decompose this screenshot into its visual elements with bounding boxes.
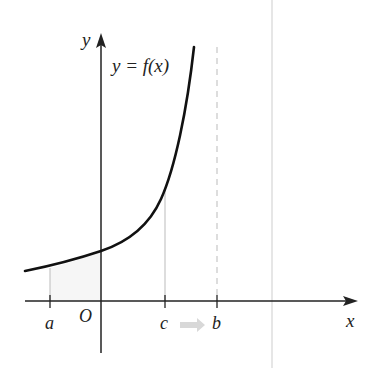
c-to-b-arrow-icon [180,318,205,332]
point-b-label: b [212,313,221,333]
origin-label: O [79,306,92,326]
x-axis-label: x [345,310,355,331]
point-a-label: a [45,313,54,333]
curve-label: y = f(x) [110,55,169,77]
function-curve [25,47,194,271]
y-axis-label: y [80,29,91,50]
function-graph: y y = f(x) x O a c b [0,0,390,368]
point-c-label: c [160,313,168,333]
